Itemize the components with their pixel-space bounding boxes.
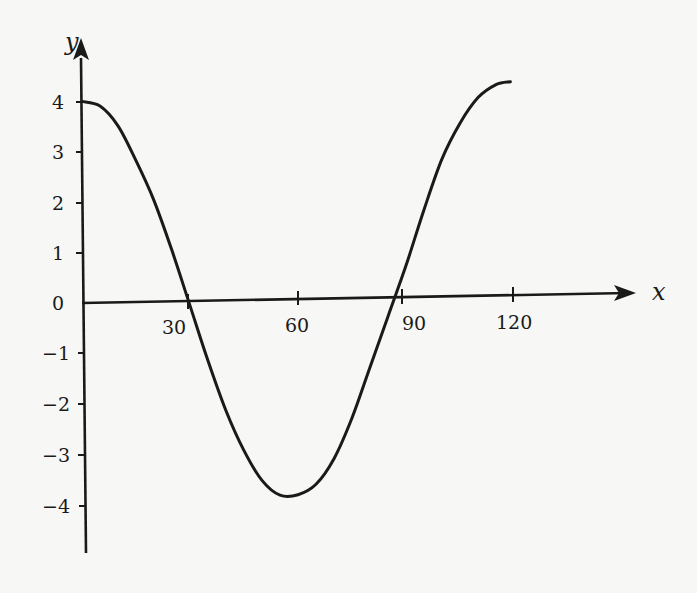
chart-figure: y x 4 3 2 1 0 −1 −2 −3 −4 30 60 90 120 — [0, 0, 697, 593]
svg-text:−4: −4 — [42, 495, 70, 517]
svg-text:2: 2 — [52, 192, 64, 214]
svg-text:90: 90 — [402, 312, 426, 334]
x-axis-label: x — [652, 278, 666, 306]
svg-text:−3: −3 — [42, 444, 70, 466]
x-tick-labels: 30 60 90 120 — [162, 311, 532, 338]
svg-text:1: 1 — [52, 242, 64, 264]
svg-text:3: 3 — [52, 141, 64, 163]
x-axis — [82, 293, 628, 303]
y-tick-labels: 4 3 2 1 0 −1 −2 −3 −4 — [42, 91, 70, 517]
data-curve — [82, 82, 510, 497]
svg-text:−2: −2 — [42, 393, 70, 415]
y-axis-label: y — [64, 28, 79, 56]
svg-text:0: 0 — [52, 292, 64, 314]
svg-text:−1: −1 — [42, 342, 70, 364]
svg-text:30: 30 — [162, 316, 186, 338]
svg-text:4: 4 — [52, 91, 64, 113]
svg-text:60: 60 — [285, 314, 309, 336]
svg-text:120: 120 — [496, 311, 532, 333]
y-axis — [81, 58, 86, 553]
